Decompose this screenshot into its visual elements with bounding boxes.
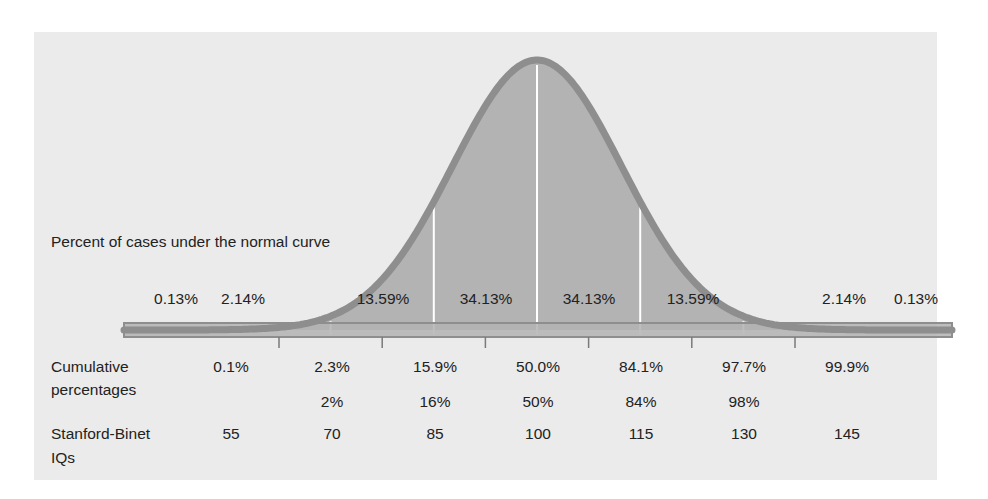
cumulative-rounded-value: 2% — [321, 392, 343, 412]
segment-label: 13.59% — [667, 289, 720, 309]
segment-label: 2.14% — [822, 289, 866, 309]
cumulative-percent-value: 97.7% — [722, 357, 766, 377]
cumulative-percent-value: 0.1% — [213, 357, 248, 377]
cumulative-percent-value: 15.9% — [413, 357, 457, 377]
row-label-cumulative-2: percentages — [51, 380, 136, 400]
cumulative-rounded-value: 16% — [419, 392, 450, 412]
row-label-cumulative-1: Cumulative — [51, 357, 129, 377]
iq-value: 55 — [222, 424, 239, 444]
iq-value: 115 — [629, 424, 654, 444]
iq-value: 100 — [525, 424, 551, 444]
row-label-iq-2: IQs — [51, 448, 75, 468]
cumulative-percent-value: 50.0% — [516, 357, 560, 377]
iq-value: 85 — [426, 424, 443, 444]
row-label-iq-1: Stanford-Binet — [51, 424, 150, 444]
segment-label: 34.13% — [460, 289, 513, 309]
cumulative-rounded-value: 84% — [625, 392, 656, 412]
section-label-percent-cases: Percent of cases under the normal curve — [51, 232, 330, 252]
cumulative-rounded-value: 50% — [522, 392, 553, 412]
iq-value: 145 — [834, 424, 860, 444]
segment-label: 0.13% — [894, 289, 938, 309]
axis-ticks — [279, 337, 795, 348]
cumulative-percent-value: 84.1% — [619, 357, 663, 377]
cumulative-percent-value: 2.3% — [314, 357, 349, 377]
cumulative-rounded-value: 98% — [728, 392, 759, 412]
segment-label: 34.13% — [563, 289, 616, 309]
iq-value: 70 — [323, 424, 340, 444]
sd-divider-lines — [176, 65, 898, 335]
segment-label: 13.59% — [357, 289, 410, 309]
iq-value: 130 — [731, 424, 757, 444]
segment-label: 2.14% — [221, 289, 265, 309]
cumulative-percent-value: 99.9% — [825, 357, 869, 377]
segment-label: 0.13% — [154, 289, 198, 309]
